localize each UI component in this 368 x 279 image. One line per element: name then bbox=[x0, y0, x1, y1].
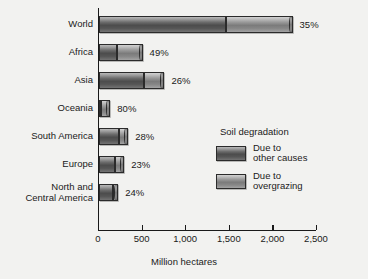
category-label: Oceania bbox=[0, 103, 93, 114]
x-axis-title: Million hectares bbox=[0, 256, 368, 267]
bar-segment-other bbox=[99, 128, 119, 145]
legend-item: Due to other causes bbox=[216, 143, 307, 163]
x-axis-tick bbox=[185, 225, 186, 230]
stacked-bar bbox=[99, 128, 128, 145]
bar-segment-over bbox=[117, 44, 142, 61]
x-axis-tick-label: 2,500 bbox=[304, 233, 328, 244]
x-axis-tick-label: 500 bbox=[134, 233, 150, 244]
x-axis-tick-label: 2,000 bbox=[261, 233, 285, 244]
chart-container: WorldAfricaAsiaOceaniaSouth AmericaEurop… bbox=[0, 0, 368, 279]
stacked-bar bbox=[99, 72, 164, 89]
x-axis-tick bbox=[316, 225, 317, 230]
stacked-bar bbox=[99, 156, 124, 173]
category-label: Asia bbox=[0, 75, 93, 86]
bar-percent-label: 80% bbox=[117, 100, 136, 117]
bar-segment-over bbox=[144, 72, 164, 89]
legend-label: Due to other causes bbox=[253, 143, 307, 163]
bar-segment-other bbox=[99, 72, 144, 89]
bar-segment-other bbox=[99, 184, 113, 201]
category-label: World bbox=[0, 19, 93, 30]
bar-segment-other bbox=[99, 156, 115, 173]
category-label: South America bbox=[0, 131, 93, 142]
legend-item: Due to overgrazing bbox=[216, 171, 307, 191]
category-label: Europe bbox=[0, 159, 93, 170]
bar-segment-over bbox=[226, 16, 292, 33]
bar-segment-other bbox=[99, 16, 226, 33]
legend: Soil degradation Due to other causesDue … bbox=[216, 126, 307, 199]
bar-segment-over bbox=[115, 156, 124, 173]
x-axis-line bbox=[98, 230, 316, 231]
legend-label: Due to overgrazing bbox=[253, 171, 303, 191]
bar-percent-label: 24% bbox=[125, 184, 144, 201]
stacked-bar bbox=[99, 100, 110, 117]
x-axis-tick-label: 0 bbox=[95, 233, 100, 244]
bar-percent-label: 49% bbox=[150, 44, 169, 61]
x-axis-tick bbox=[142, 225, 143, 230]
stacked-bar bbox=[99, 16, 293, 33]
bar-percent-label: 35% bbox=[300, 16, 319, 33]
bar-segment-over bbox=[113, 184, 118, 201]
x-axis-tick-label: 1,500 bbox=[217, 233, 241, 244]
legend-swatch-other bbox=[216, 146, 246, 161]
bar-segment-over bbox=[119, 128, 129, 145]
bar-segment-over bbox=[101, 100, 110, 117]
category-label: Africa bbox=[0, 47, 93, 58]
x-axis-tick bbox=[272, 225, 273, 230]
bar-percent-label: 23% bbox=[131, 156, 150, 173]
category-label: North and Central America bbox=[0, 182, 93, 203]
stacked-bar bbox=[99, 44, 143, 61]
legend-swatch-over bbox=[216, 174, 246, 189]
bar-segment-other bbox=[99, 44, 117, 61]
x-axis-tick bbox=[98, 225, 99, 230]
legend-items: Due to other causesDue to overgrazing bbox=[216, 143, 307, 191]
x-axis-tick bbox=[229, 225, 230, 230]
x-axis-tick-label: 1,000 bbox=[173, 233, 197, 244]
bar-percent-label: 26% bbox=[171, 72, 190, 89]
bar-percent-label: 28% bbox=[135, 128, 154, 145]
stacked-bar bbox=[99, 184, 118, 201]
legend-title: Soil degradation bbox=[220, 126, 307, 137]
